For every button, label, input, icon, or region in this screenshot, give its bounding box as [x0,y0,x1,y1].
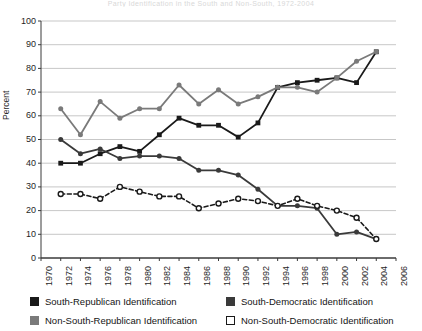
data-point [98,196,103,201]
legend-swatch-icon [30,297,39,306]
data-point [236,173,241,178]
data-point [295,80,300,85]
data-point [177,82,182,87]
data-point [58,106,63,111]
data-point [196,168,201,173]
data-point [78,132,83,137]
legend-item[interactable]: Non-South-Republican Identification [30,315,226,326]
series-line-south_democratic [61,140,377,240]
legend-row: Non-South-Republican IdentificationNon-S… [30,311,422,330]
data-point [157,154,162,159]
legend-item[interactable]: South-Republican Identification [30,296,226,307]
data-point [295,85,300,90]
chart-legend: South-Republican IdentificationSouth-Dem… [30,292,422,330]
series-line-non_south_republican [61,52,377,135]
data-point [117,116,122,121]
data-point [78,161,83,166]
data-point [196,123,201,128]
data-point [58,137,63,142]
legend-label: South-Democratic Identification [241,296,373,307]
legend-label: Non-South-Republican Identification [45,315,197,326]
data-point [334,232,339,237]
legend-label: Non-South-Democratic Identification [241,315,394,326]
data-point [117,156,122,161]
axis-lines [38,21,396,261]
data-point [216,123,221,128]
data-point [177,156,182,161]
data-point [216,87,221,92]
data-point [78,151,83,156]
data-point [137,106,142,111]
data-point [78,192,83,197]
data-point [157,132,162,137]
data-point [236,101,241,106]
data-point [255,187,260,192]
data-point [315,203,320,208]
data-point [295,196,300,201]
series-south_democratic [58,137,379,242]
data-point [334,75,339,80]
data-point [256,121,261,126]
data-point [157,194,162,199]
data-point [137,154,142,159]
legend-row: South-Republican IdentificationSouth-Dem… [30,292,422,311]
data-point [137,149,142,154]
data-point [315,78,320,83]
legend-label: South-Republican Identification [45,296,177,307]
data-point [354,80,359,85]
data-point [98,99,103,104]
gridlines [41,21,396,258]
legend-swatch-icon [30,316,39,325]
data-point [334,208,339,213]
series-line-non_south_democratic [61,187,377,239]
data-point [177,116,182,121]
data-point [117,184,122,189]
data-point [354,59,359,64]
data-point [275,85,280,90]
data-point [216,201,221,206]
data-point [216,168,221,173]
legend-swatch-icon [226,297,235,306]
data-point [117,144,122,149]
data-point [98,151,103,156]
data-point [255,94,260,99]
legend-item[interactable]: Non-South-Democratic Identification [226,315,422,326]
legend-item[interactable]: South-Democratic Identification [226,296,422,307]
data-point [275,203,280,208]
series-non_south_democratic [58,184,379,241]
data-point [177,194,182,199]
data-point [236,196,241,201]
data-point [58,161,63,166]
data-point [196,206,201,211]
data-point [315,90,320,95]
data-point [354,229,359,234]
data-point [157,106,162,111]
chart-container: Party Identification in the South and No… [0,0,422,331]
data-point [98,146,103,151]
data-point [374,49,379,54]
data-point [255,199,260,204]
data-point [295,203,300,208]
plot-area [0,0,422,331]
legend-swatch-icon [226,316,235,325]
data-point [236,135,241,140]
data-point [354,215,359,220]
data-point [196,101,201,106]
data-point [137,189,142,194]
data-point [374,237,379,242]
data-point [58,192,63,197]
